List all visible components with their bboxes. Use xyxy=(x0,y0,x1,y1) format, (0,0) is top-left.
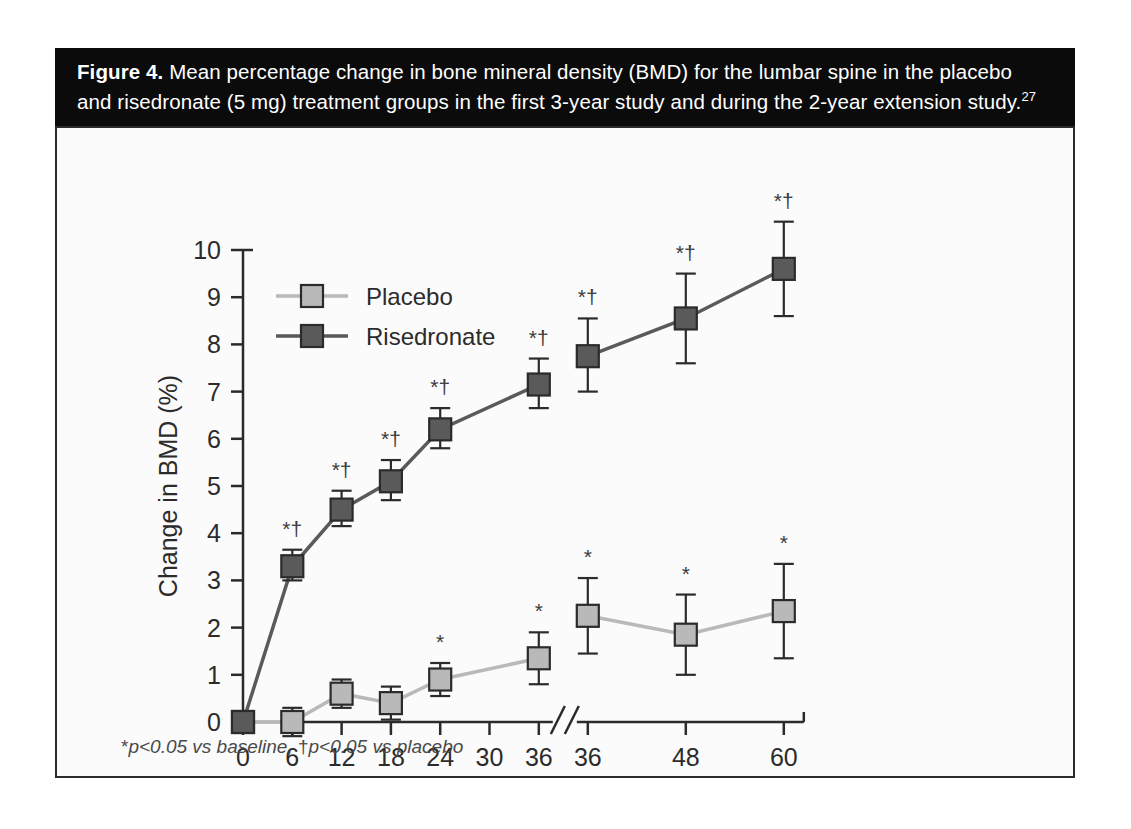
data-point-marker[interactable] xyxy=(380,692,402,714)
caption-text-2: and risedronate (5 mg) treatment groups … xyxy=(77,90,1021,113)
significance-marker: * xyxy=(584,545,592,568)
data-point-marker[interactable] xyxy=(528,647,550,669)
significance-marker: *† xyxy=(430,375,450,398)
y-tick-label: 9 xyxy=(207,283,221,311)
significance-marker: * xyxy=(436,630,444,653)
legend-label-placebo: Placebo xyxy=(366,283,453,310)
significance-marker: *† xyxy=(676,241,696,264)
caption-text-1: Mean percentage change in bone mineral d… xyxy=(163,60,1012,83)
data-point-marker[interactable] xyxy=(675,307,697,329)
legend-marker-placebo[interactable] xyxy=(301,285,323,307)
figure-container: Figure 4. Mean percentage change in bone… xyxy=(55,48,1075,778)
x-tick-label: 48 xyxy=(672,743,700,771)
y-tick-label: 7 xyxy=(207,378,221,406)
y-axis-title: Change in BMD (%) xyxy=(154,375,182,597)
x-tick-label: 30 xyxy=(476,743,504,771)
x-tick-label: 36 xyxy=(574,743,602,771)
plot-frame: PlaceboRisedronate 012345678910061218243… xyxy=(55,126,1075,778)
data-point-marker[interactable] xyxy=(429,669,451,691)
caption-reference: 27 xyxy=(1021,89,1036,104)
series-placebo xyxy=(232,564,795,736)
y-tick-label: 8 xyxy=(207,330,221,358)
axis-break-slash-2 xyxy=(565,706,579,734)
footnote-text-a: p<0.05 vs baseline, xyxy=(128,736,298,757)
significance-marker: * xyxy=(535,599,543,622)
labels-layer: 012345678910061218243036364860Time (mont… xyxy=(154,189,798,776)
data-point-marker[interactable] xyxy=(675,624,697,646)
data-point-marker[interactable] xyxy=(773,258,795,280)
significance-marker: * xyxy=(780,531,788,554)
data-point-marker[interactable] xyxy=(331,499,353,521)
data-point-marker[interactable] xyxy=(577,345,599,367)
data-point-marker[interactable] xyxy=(232,711,254,733)
figure-caption-bar: Figure 4. Mean percentage change in bone… xyxy=(55,48,1075,126)
y-tick-label: 3 xyxy=(207,566,221,594)
chart-svg: PlaceboRisedronate 012345678910061218243… xyxy=(57,128,1073,776)
data-point-marker[interactable] xyxy=(281,555,303,577)
significance-marker: *† xyxy=(578,285,598,308)
footnote-text-b: p<0.05 vs placebo xyxy=(309,736,464,757)
y-tick-label: 4 xyxy=(207,519,221,547)
data-point-marker[interactable] xyxy=(331,683,353,705)
y-tick-label: 0 xyxy=(207,708,221,736)
data-point-marker[interactable] xyxy=(773,600,795,622)
data-point-marker[interactable] xyxy=(528,374,550,396)
data-point-marker[interactable] xyxy=(577,605,599,627)
figure-footnote: *p<0.05 vs baseline, †p<0.05 vs placebo xyxy=(121,736,463,758)
footnote-dagger-symbol: † xyxy=(298,736,309,757)
data-point-marker[interactable] xyxy=(380,470,402,492)
significance-marker: *† xyxy=(332,458,352,481)
y-tick-label: 1 xyxy=(207,661,221,689)
y-tick-label: 10 xyxy=(193,236,221,264)
data-point-marker[interactable] xyxy=(429,418,451,440)
x-tick-label: 60 xyxy=(770,743,798,771)
axis-break-slash-1 xyxy=(551,706,565,734)
legend-label-risedronate: Risedronate xyxy=(366,323,495,350)
significance-marker: *† xyxy=(282,517,302,540)
y-tick-label: 2 xyxy=(207,614,221,642)
figure-number: Figure 4. xyxy=(77,60,163,83)
significance-marker: *† xyxy=(529,326,549,349)
legend-layer: PlaceboRisedronate xyxy=(276,283,495,350)
significance-marker: *† xyxy=(774,189,794,212)
x-tick-label: 36 xyxy=(525,743,553,771)
y-tick-label: 6 xyxy=(207,425,221,453)
data-point-marker[interactable] xyxy=(281,711,303,733)
significance-marker: *† xyxy=(381,427,401,450)
significance-marker: * xyxy=(682,562,690,585)
caption-line-1: Figure 4. Mean percentage change in bone… xyxy=(77,57,1053,87)
legend-marker-risedronate[interactable] xyxy=(301,325,323,347)
y-tick-label: 5 xyxy=(207,472,221,500)
caption-line-2: and risedronate (5 mg) treatment groups … xyxy=(77,87,1053,117)
